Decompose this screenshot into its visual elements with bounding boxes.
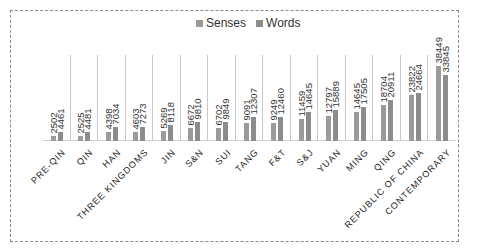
bar-words <box>85 132 90 141</box>
bar-words <box>140 127 145 141</box>
data-label-words: 4461 <box>55 108 65 129</box>
data-label-words: 7273 <box>138 103 148 124</box>
category-separator <box>97 55 98 141</box>
category-separator <box>345 55 346 141</box>
legend-item-senses: Senses <box>196 16 246 30</box>
data-label-words: 24664 <box>413 64 423 90</box>
bar-words <box>278 117 283 141</box>
bar-words <box>361 107 366 141</box>
data-label-words: 8118 <box>165 102 175 122</box>
bar-senses <box>271 123 276 141</box>
category-separator <box>400 55 401 141</box>
data-label-words: 4481 <box>83 108 93 129</box>
category-separator <box>372 55 373 141</box>
bar-senses <box>78 136 83 141</box>
category-separator <box>180 55 181 141</box>
category-separator <box>262 55 263 141</box>
data-label-words: 9810 <box>193 98 203 119</box>
bar-words <box>251 117 256 141</box>
category-separator <box>290 55 291 141</box>
category-separator <box>427 55 428 141</box>
bar-words <box>223 122 228 141</box>
bar-words <box>443 75 448 141</box>
data-label-words: 17505 <box>358 78 368 104</box>
bar-words <box>416 93 421 141</box>
legend-label-senses: Senses <box>206 16 246 30</box>
bar-words <box>58 132 63 141</box>
bar-senses <box>299 119 304 141</box>
data-label-words: 33845 <box>441 46 451 72</box>
data-label-words: 12307 <box>248 88 258 114</box>
data-label-words: 9849 <box>220 98 230 119</box>
bar-senses <box>436 66 441 141</box>
bar-senses <box>106 132 111 141</box>
bar-senses <box>133 132 138 141</box>
category-separator <box>152 55 153 141</box>
plot-area: 2502446125254481439870344603727352698118… <box>43 55 456 141</box>
data-label-words: 7034 <box>110 103 120 124</box>
category-separator <box>207 55 208 141</box>
bar-senses <box>409 95 414 141</box>
data-label-words: 15889 <box>331 81 341 107</box>
bar-senses <box>188 128 193 141</box>
data-label-words: 14645 <box>303 83 313 109</box>
bar-senses <box>381 105 386 141</box>
bar-words <box>333 110 338 141</box>
category-separator <box>70 55 71 141</box>
bar-words <box>388 100 393 141</box>
data-label-words: 12460 <box>276 88 286 114</box>
chart-legend: Senses Words <box>196 16 300 30</box>
bar-senses <box>216 128 221 141</box>
bar-words <box>113 127 118 141</box>
data-label-words: 20911 <box>386 71 396 97</box>
bar-words <box>168 125 173 141</box>
bar-words <box>306 112 311 141</box>
category-separator <box>125 55 126 141</box>
legend-swatch-words <box>256 20 263 27</box>
category-separator <box>317 55 318 141</box>
category-separator <box>235 55 236 141</box>
legend-item-words: Words <box>256 16 300 30</box>
bar-words <box>195 122 200 141</box>
legend-swatch-senses <box>196 20 203 27</box>
bar-senses <box>51 136 56 141</box>
bar-senses <box>354 112 359 141</box>
bar-senses <box>326 116 331 141</box>
bar-senses <box>161 131 166 141</box>
bar-senses <box>244 123 249 141</box>
legend-label-words: Words <box>266 16 300 30</box>
